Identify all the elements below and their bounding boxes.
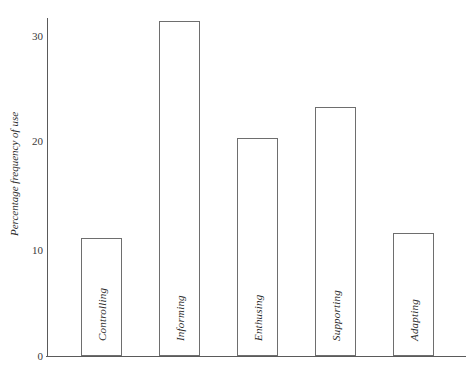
bar-label-supporting: Supporting: [330, 290, 342, 341]
bar-label-adapting: Adapting: [408, 299, 420, 341]
bar-label-informing: Informing: [174, 295, 186, 341]
bar-adapting: Adapting: [393, 233, 434, 356]
plot-area: Controlling Informing Enthusing Supporti…: [0, 0, 466, 375]
bar-chart: 0 10 20 30 Percentage frequency of use C…: [0, 0, 466, 375]
bar-enthusing: Enthusing: [237, 138, 278, 356]
bar-supporting: Supporting: [315, 107, 356, 356]
bar-controlling: Controlling: [81, 238, 122, 356]
bar-informing: Informing: [159, 21, 200, 356]
bar-label-controlling: Controlling: [96, 288, 108, 341]
bar-label-enthusing: Enthusing: [252, 295, 264, 341]
